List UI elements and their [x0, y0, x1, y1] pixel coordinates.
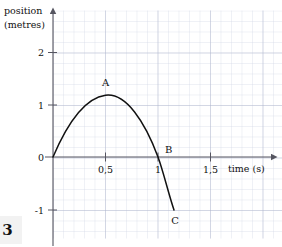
y-axis-label-line1: position: [4, 5, 42, 16]
x-tick-label-1: 1: [155, 164, 161, 175]
point-label-c: C: [171, 215, 179, 226]
x-tick-label-1-5: 1,5: [203, 164, 218, 175]
y-tick-label-2: 2: [38, 47, 44, 58]
y-axis-label-line2: (metres): [4, 19, 45, 30]
x-axis-label: time (s): [228, 163, 265, 174]
y-tick-label-1: 1: [38, 100, 44, 111]
grid-layer: [53, 11, 282, 239]
point-label-b: B: [165, 144, 172, 155]
point-label-a: A: [101, 77, 110, 88]
major-gridlines: [53, 11, 282, 239]
corner-page-number: 3: [0, 216, 22, 244]
x-tick-label-0-5: 0,5: [98, 164, 113, 175]
y-tick-label-0: 0: [38, 152, 44, 163]
y-tick-label-minus-1: -1: [35, 205, 44, 216]
position-time-graph-figure: position (metres) time (s) 2 1 0 -1 0,5 …: [0, 0, 282, 247]
plot-canvas: position (metres) time (s) 2 1 0 -1 0,5 …: [0, 0, 282, 247]
